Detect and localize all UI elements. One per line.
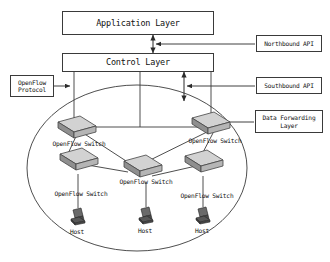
openflow-protocol-label-line1: OpenFlow — [18, 79, 46, 86]
host-right-icon — [196, 207, 210, 224]
host-left-label: Host — [62, 228, 92, 235]
northbound-api-box[interactable]: Northbound API — [256, 35, 322, 52]
host-center-label: Host — [130, 227, 160, 234]
sw-center-icon — [124, 155, 162, 177]
openflow-protocol-box[interactable]: OpenFlow Protocol — [10, 75, 54, 97]
sw-top-left-icon — [58, 116, 96, 138]
control-layer-box[interactable]: Control Layer — [62, 53, 214, 72]
host-left-icon — [71, 208, 85, 225]
host-center-icon — [139, 207, 153, 224]
host-glyph-group — [71, 207, 210, 225]
sdn-architecture-diagram: Application Layer Control Layer Northbou… — [0, 0, 330, 262]
host-right-label: Host — [187, 227, 217, 234]
sw-bottom-right-icon — [185, 150, 223, 172]
data-forwarding-layer-label-line1: Data Forwarding — [263, 114, 316, 121]
southbound-api-label: Southbound API — [264, 82, 313, 89]
southbound-api-box[interactable]: Southbound API — [256, 77, 322, 94]
sw-top-right-icon — [192, 112, 230, 134]
sw-center-label: OpenFlow Switch — [109, 178, 183, 185]
northbound-api-label: Northbound API — [264, 40, 313, 47]
application-layer-box[interactable]: Application Layer — [62, 11, 214, 35]
sw-bottom-left-label: OpenFlow Switch — [44, 190, 118, 197]
data-forwarding-layer-label-line2: Layer — [280, 122, 298, 129]
openflow-protocol-label-line2: Protocol — [18, 86, 46, 93]
control-layer-label: Control Layer — [106, 57, 170, 67]
sw-top-right-label: OpenFlow Switch — [178, 137, 252, 144]
sw-bottom-right-label: OpenFlow Switch — [170, 192, 244, 199]
sw-bottom-left-icon — [60, 148, 98, 170]
application-layer-label: Application Layer — [96, 18, 180, 28]
data-forwarding-layer-box[interactable]: Data Forwarding Layer — [255, 110, 323, 133]
sw-top-left-label: OpenFlow Switch — [42, 140, 116, 147]
